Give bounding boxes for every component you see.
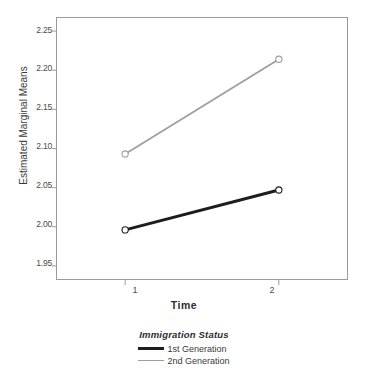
y-tick-label: 1.95 [22, 259, 52, 268]
x-axis-title: Time [0, 299, 368, 311]
legend-line-swatch-icon [138, 344, 164, 354]
interaction-plot: 2.25 2.20 2.15 2.10 2.05 2.00 1.95 Estim… [0, 0, 368, 377]
legend-title: Immigration Status [0, 329, 368, 340]
plot-area [56, 17, 348, 280]
legend-entries: 1st Generation 2nd Generation [138, 343, 229, 367]
legend-item-label: 1st Generation [167, 344, 226, 354]
legend-item-1st-generation[interactable]: 1st Generation [138, 343, 229, 354]
y-axis-title: Estimated Marginal Means [18, 26, 29, 226]
legend-line-swatch-icon [138, 356, 164, 366]
x-tick-label: 1 [125, 285, 145, 295]
x-tick-label: 2 [262, 285, 282, 295]
legend: Immigration Status 1st Generation 2nd Ge… [0, 329, 368, 370]
legend-item-2nd-generation[interactable]: 2nd Generation [138, 355, 229, 366]
legend-item-label: 2nd Generation [167, 356, 229, 366]
